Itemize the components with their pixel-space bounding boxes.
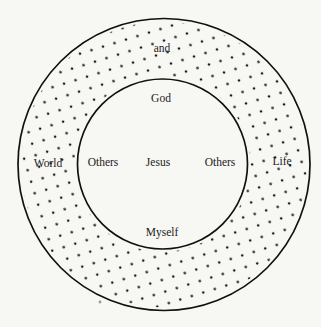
label-life: Life	[272, 156, 291, 168]
concentric-circle-diagram: and World Life God Jesus Others Others M…	[0, 0, 321, 327]
label-and: and	[154, 43, 171, 55]
stray-speck	[99, 301, 102, 304]
label-jesus: Jesus	[146, 157, 170, 169]
label-others-right: Others	[205, 157, 236, 169]
label-world: World	[34, 158, 62, 170]
label-myself: Myself	[146, 227, 179, 239]
label-others-left: Others	[88, 157, 119, 169]
label-god: God	[151, 93, 171, 105]
